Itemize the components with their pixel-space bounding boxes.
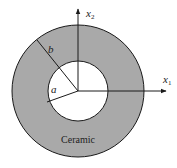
x1-axis-label: x1 [162,73,172,87]
material-label: Ceramic [61,134,95,145]
x2-axis-label: x2 [85,7,95,21]
annulus-diagram: x2 x1 b a Ceramic [0,0,177,168]
inner-radius-label: a [51,83,57,95]
outer-radius-label: b [48,43,54,55]
